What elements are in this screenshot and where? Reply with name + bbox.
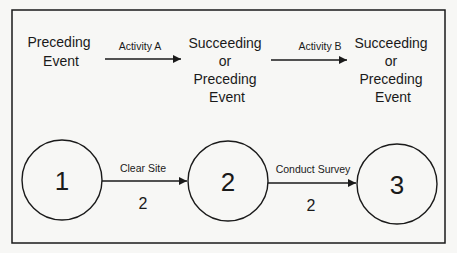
node-2-label: 2 xyxy=(221,167,235,197)
node-1-label: 1 xyxy=(55,166,69,196)
activity-clear-site-label: Clear Site xyxy=(120,162,166,174)
example-row: 1 Clear Site 2 2 Conduct Survey 2 3 xyxy=(22,140,437,224)
activity-b-label: Activity B xyxy=(298,40,341,52)
node-3-label: 3 xyxy=(390,170,404,200)
activity-a-label: Activity A xyxy=(119,40,162,52)
legend-row: Preceding Event Activity A Succeeding or… xyxy=(28,34,432,105)
activity-conduct-survey-duration: 2 xyxy=(307,197,316,214)
event-label-preceding: Preceding Event xyxy=(28,34,95,69)
activity-clear-site-duration: 2 xyxy=(139,195,148,212)
network-diagram: Preceding Event Activity A Succeeding or… xyxy=(0,0,457,253)
activity-conduct-survey-label: Conduct Survey xyxy=(276,163,351,175)
event-label-middle: Succeeding or Preceding Event xyxy=(188,35,265,105)
event-label-right: Succeeding or Preceding Event xyxy=(354,35,431,105)
